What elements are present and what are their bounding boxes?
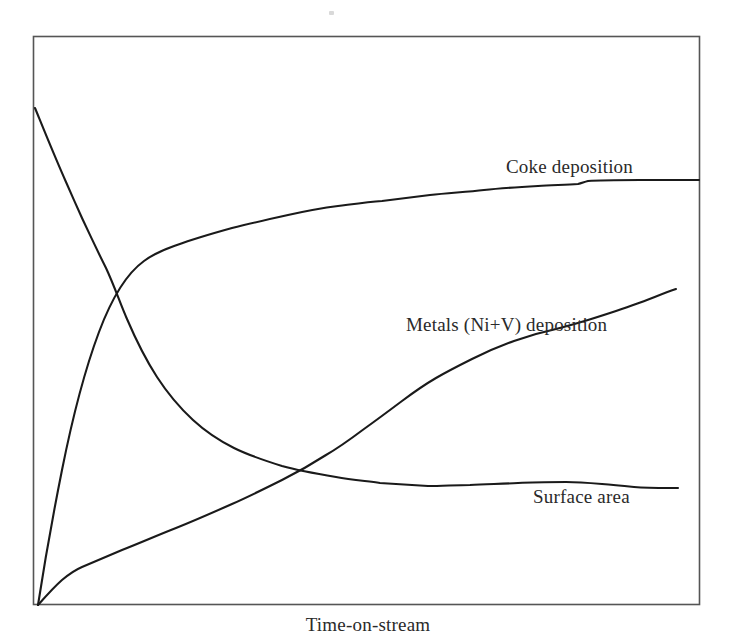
chart-canvas [0, 0, 736, 641]
figure-root: Coke deposition Metals (Ni+V) deposition… [0, 0, 736, 641]
series-label-surface-area: Surface area [533, 487, 630, 506]
series-label-coke-deposition: Coke deposition [506, 157, 633, 176]
x-axis-caption: Time-on-stream [0, 614, 736, 636]
series-label-metals-deposition: Metals (Ni+V) deposition [406, 315, 607, 334]
